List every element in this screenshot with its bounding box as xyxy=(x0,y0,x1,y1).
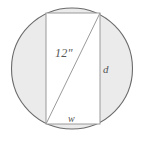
geometry-figure: 12" d w xyxy=(0,0,144,145)
width-label: w xyxy=(68,114,75,124)
depth-label: d xyxy=(103,64,109,75)
diagonal-length-label: 12" xyxy=(55,47,73,59)
